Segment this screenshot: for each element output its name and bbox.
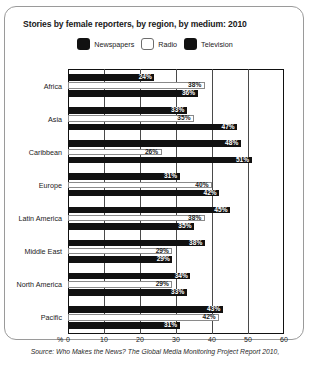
region-label-caribbean: Caribbean <box>29 147 62 156</box>
bar-television-caribbean: 51% <box>68 157 252 164</box>
bar-row: 38% <box>68 82 284 89</box>
bar-row: 51% <box>68 157 284 164</box>
bar-row: 45% <box>68 207 284 214</box>
bar-radio-caribbean: 26% <box>68 149 162 156</box>
bar-value-label: 42% <box>203 190 219 197</box>
x-tick-50: 50 <box>244 336 252 343</box>
bar-row: 33% <box>68 107 284 114</box>
bar-row: 29% <box>68 256 284 263</box>
bar-radio-middle-east: 29% <box>68 248 172 255</box>
x-tick-0: 0 <box>66 336 70 343</box>
bar-row: 38% <box>68 240 284 247</box>
region-label-pacific: Pacific <box>41 313 62 322</box>
legend-label-newspapers: Newspapers <box>94 40 134 49</box>
bar-radio-latin-america: 38% <box>68 215 205 222</box>
bar-radio-africa: 38% <box>68 82 205 89</box>
legend-label-television: Television <box>201 40 233 49</box>
bar-row: 33% <box>68 289 284 296</box>
bar-row: 34% <box>68 273 284 280</box>
bar-newspapers-europe: 31% <box>68 173 180 180</box>
bar-newspapers-africa: 24% <box>68 74 154 81</box>
x-axis-unit: % <box>57 336 63 343</box>
bar-row: 42% <box>68 190 284 197</box>
bar-newspapers-asia: 33% <box>68 107 187 114</box>
bar-value-label: 26% <box>145 149 161 156</box>
bar-value-label: 45% <box>214 207 230 214</box>
bar-value-label: 29% <box>157 256 173 263</box>
dark-square-icon <box>184 38 197 50</box>
bar-television-middle-east: 29% <box>68 256 172 263</box>
bar-row: 24% <box>68 74 284 81</box>
bar-value-label: 38% <box>188 215 204 222</box>
bar-value-label: 35% <box>177 115 193 122</box>
bar-row: 40% <box>68 182 284 189</box>
bar-value-label: 33% <box>171 107 187 114</box>
region-label-europe: Europe <box>39 180 62 189</box>
bar-row: 48% <box>68 140 284 147</box>
bar-value-label: 38% <box>189 240 205 247</box>
bar-newspapers-middle-east: 38% <box>68 240 205 247</box>
bar-radio-europe: 40% <box>68 182 212 189</box>
bar-row: 42% <box>68 314 284 321</box>
bar-value-label: 40% <box>195 182 211 189</box>
x-tick-40: 40 <box>208 336 216 343</box>
bar-value-label: 34% <box>175 273 191 280</box>
bar-row: 38% <box>68 215 284 222</box>
bar-value-label: 24% <box>139 74 155 81</box>
bar-value-label: 48% <box>225 140 241 147</box>
region-label-north-america: North America <box>16 280 62 289</box>
bar-television-latin-america: 35% <box>68 223 194 230</box>
bar-row: 35% <box>68 115 284 122</box>
bar-row: 31% <box>68 173 284 180</box>
bar-value-label: 36% <box>182 90 198 97</box>
bar-row: 47% <box>68 124 284 131</box>
bar-row: 36% <box>68 90 284 97</box>
bar-value-label: 31% <box>164 322 180 329</box>
bar-value-label: 42% <box>202 314 218 321</box>
region-label-middle-east: Middle East <box>24 247 62 256</box>
bar-row: 29% <box>68 281 284 288</box>
bar-radio-pacific: 42% <box>68 314 219 321</box>
dark-square-icon <box>77 38 90 50</box>
x-axis-ticks: 0102030405060 <box>68 336 284 348</box>
bar-row: 26% <box>68 149 284 156</box>
region-axis-labels: AfricaAsiaCaribbeanEuropeLatin AmericaMi… <box>5 69 65 334</box>
bar-newspapers-pacific: 43% <box>68 306 223 313</box>
bar-television-pacific: 31% <box>68 322 180 329</box>
legend-item-television: Television <box>184 38 233 50</box>
bar-newspapers-latin-america: 45% <box>68 207 230 214</box>
bar-row: 31% <box>68 322 284 329</box>
region-label-asia: Asia <box>48 114 62 123</box>
bar-television-asia: 47% <box>68 124 237 131</box>
bar-value-label: 38% <box>188 82 204 89</box>
source-caption: Source: Who Makes the News? The Global M… <box>0 348 310 355</box>
bar-value-label: 35% <box>178 223 194 230</box>
bar-newspapers-north-america: 34% <box>68 273 190 280</box>
x-tick-20: 20 <box>136 336 144 343</box>
bar-television-europe: 42% <box>68 190 219 197</box>
bar-value-label: 29% <box>156 281 172 288</box>
bar-newspapers-caribbean: 48% <box>68 140 241 147</box>
plot-area: 24%38%36%33%35%47%48%26%51%31%40%42%45%3… <box>68 69 284 334</box>
x-tick-30: 30 <box>172 336 180 343</box>
legend-item-newspapers: Newspapers <box>77 38 134 50</box>
chart-title: Stories by female reporters, by region, … <box>23 19 247 29</box>
chart-legend: Newspapers Radio Television <box>5 38 305 50</box>
bar-groups: 24%38%36%33%35%47%48%26%51%31%40%42%45%3… <box>68 69 284 334</box>
bar-value-label: 47% <box>221 124 237 131</box>
legend-item-radio: Radio <box>141 38 177 50</box>
bar-row: 43% <box>68 306 284 313</box>
bar-value-label: 51% <box>236 157 252 164</box>
chart-card: Stories by female reporters, by region, … <box>4 6 304 340</box>
bar-value-label: 31% <box>164 173 180 180</box>
bar-value-label: 43% <box>207 306 223 313</box>
bar-radio-asia: 35% <box>68 115 194 122</box>
legend-label-radio: Radio <box>158 40 177 49</box>
region-label-africa: Africa <box>44 81 62 90</box>
bar-value-label: 33% <box>171 289 187 296</box>
bar-television-north-america: 33% <box>68 289 187 296</box>
bar-value-label: 29% <box>156 248 172 255</box>
x-tick-10: 10 <box>100 336 108 343</box>
bar-television-africa: 36% <box>68 90 198 97</box>
bar-row: 35% <box>68 223 284 230</box>
